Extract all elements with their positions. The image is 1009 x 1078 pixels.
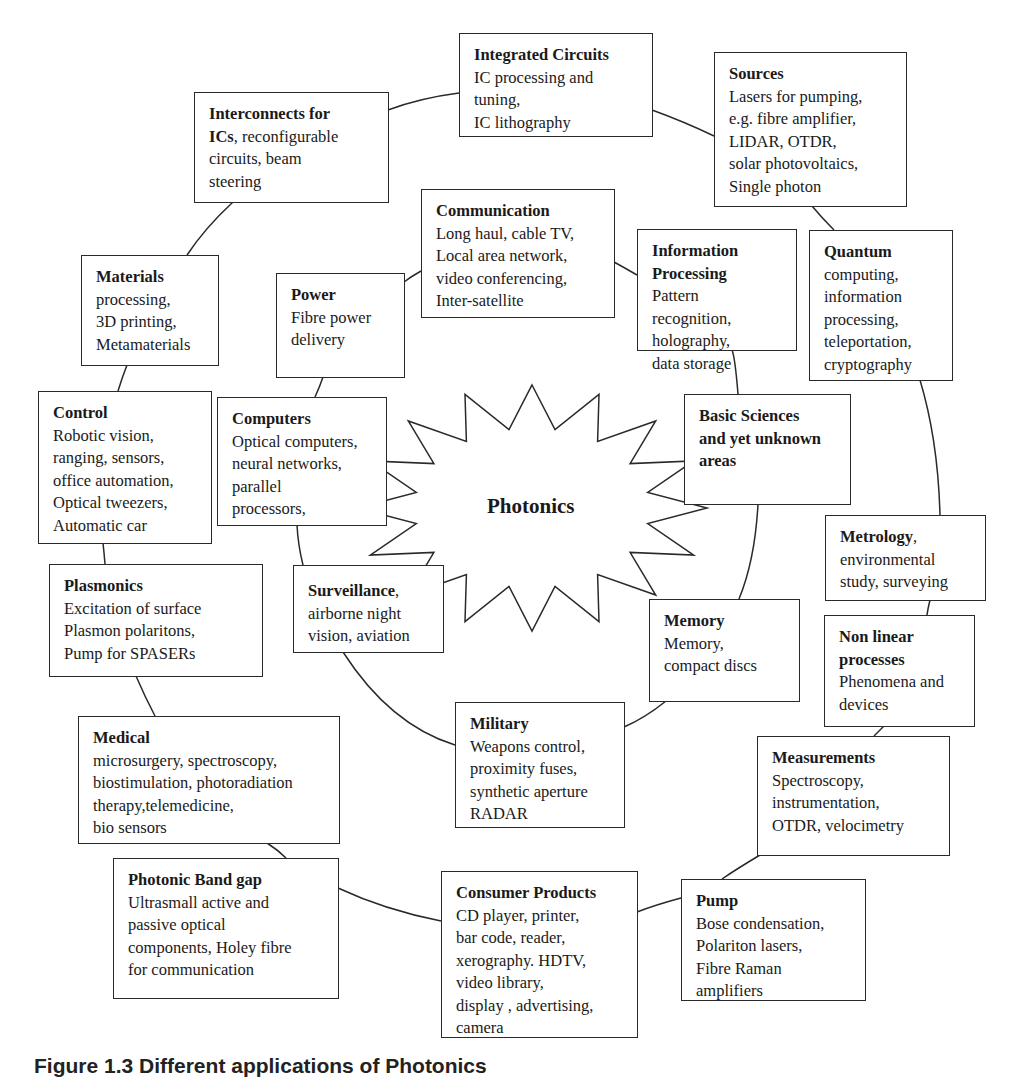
node-line: Fibre power (291, 307, 396, 330)
connector-interconnects-ic (388, 93, 459, 110)
connector-control-materials (118, 365, 127, 391)
node-line: IC processing and (474, 67, 644, 90)
node-line: Long haul, cable TV, (436, 223, 606, 246)
node-title: Interconnects for (209, 103, 380, 126)
connector-memory-military (624, 701, 666, 727)
connector-computers-power (315, 377, 323, 397)
node-line: LIDAR, OTDR, (729, 131, 898, 154)
node-line: Inter-satellite (436, 290, 606, 313)
node-surveillance: Surveillance, airborne night vision, avi… (293, 565, 444, 653)
node-title: Memory (664, 610, 791, 633)
node-line: bio sensors (93, 817, 331, 840)
node-title-suffix: , (395, 581, 399, 600)
node-title: Integrated Circuits (474, 44, 644, 67)
node-title-line-2: Processing (652, 263, 788, 286)
node-line: e.g. fibre amplifier, (729, 108, 898, 131)
node-interconnects: Interconnects for ICs, reconfigurable ci… (194, 92, 389, 203)
node-title: Power (291, 284, 396, 307)
node-line: Excitation of surface (64, 598, 254, 621)
connector-ic-sources (652, 110, 714, 136)
node-line: microsurgery, spectroscopy, (93, 750, 331, 773)
node-title-suffix: , reconfigurable (234, 127, 338, 146)
node-line: compact discs (664, 655, 791, 678)
node-title: Photonic Band gap (128, 869, 330, 892)
node-line: for communication (128, 959, 330, 982)
node-memory: Memory Memory, compact discs (649, 599, 800, 702)
node-title: Medical (93, 727, 331, 750)
node-title-part: ICs (209, 127, 234, 146)
node-line: Optical computers, (232, 431, 378, 454)
node-line: Spectroscopy, (772, 770, 941, 793)
node-line: Pattern (652, 285, 788, 308)
node-line: xerography. HDTV, (456, 950, 629, 973)
node-line: cryptography (824, 354, 944, 377)
connector-basic-memory (739, 504, 758, 599)
node-measurements: Measurements Spectroscopy, instrumentati… (757, 736, 950, 856)
node-communication: Communication Long haul, cable TV, Local… (421, 189, 615, 318)
node-line: proximity fuses, (470, 758, 616, 781)
node-line: parallel (232, 476, 378, 499)
node-line: information (824, 286, 944, 309)
node-line: bar code, reader, (456, 927, 629, 950)
node-line: Automatic car (53, 515, 203, 538)
node-line: processors, (232, 498, 378, 521)
node-line: computing, (824, 264, 944, 287)
node-line: CD player, printer, (456, 905, 629, 928)
node-title: Plasmonics (64, 575, 254, 598)
node-line: therapy,telemedicine, (93, 795, 331, 818)
connector-military-surveillance (343, 652, 455, 745)
node-power: Power Fibre power delivery (276, 273, 405, 378)
node-title-line-2: processes (839, 649, 966, 672)
node-integrated-circuits: Integrated Circuits IC processing and tu… (459, 33, 653, 137)
node-line: steering (209, 171, 380, 194)
node-line: IC lithography (474, 112, 644, 135)
node-line: Metamaterials (96, 334, 210, 357)
node-line: processing, (96, 289, 210, 312)
node-information-processing: Information Processing Pattern recogniti… (637, 229, 797, 351)
node-title-line-2: ICs, reconfigurable (209, 126, 380, 149)
node-line: video library, (456, 972, 629, 995)
node-line: video conferencing, (436, 268, 606, 291)
node-line: holography, (652, 330, 788, 353)
node-line: Pump for SPASERs (64, 643, 254, 666)
node-line: components, Holey fibre (128, 937, 330, 960)
connector-pump-consumer (637, 898, 681, 912)
node-line: RADAR (470, 803, 616, 826)
node-title: Communication (436, 200, 606, 223)
node-line: office automation, (53, 470, 203, 493)
node-line: processing, (824, 309, 944, 332)
node-line: Single photon (729, 176, 898, 199)
node-title-line: Surveillance, (308, 580, 435, 603)
node-title: Sources (729, 63, 898, 86)
figure-caption: Figure 1.3 Different applications of Pho… (34, 1054, 487, 1078)
node-line: Local area network, (436, 245, 606, 268)
connector-power-communication (404, 271, 421, 282)
node-title: Pump (696, 890, 857, 913)
node-line: Plasmon polaritons, (64, 620, 254, 643)
node-line: environmental (840, 549, 977, 572)
node-line: Polariton lasers, (696, 935, 857, 958)
node-metrology: Metrology, environmental study, surveyin… (825, 515, 986, 601)
node-line: Fibre Raman (696, 958, 857, 981)
node-consumer-products: Consumer Products CD player, printer, ba… (441, 871, 638, 1038)
node-photonic-band-gap: Photonic Band gap Ultrasmall active and … (113, 858, 339, 999)
node-line: synthetic aperture (470, 781, 616, 804)
node-line: tuning, (474, 89, 644, 112)
connector-consumer-pbg (338, 888, 441, 921)
node-line: recognition, (652, 308, 788, 331)
node-line: camera (456, 1017, 629, 1040)
node-quantum: Quantum computing, information processin… (809, 230, 953, 381)
center-label: Photonics (487, 494, 575, 519)
node-title: Basic Sciences (699, 405, 842, 428)
node-title: Quantum (824, 241, 944, 264)
node-line: delivery (291, 329, 396, 352)
node-title-line-3: areas (699, 450, 842, 473)
connector-nonlinear-measurements (874, 726, 884, 736)
connector-sources-quantum (812, 206, 834, 230)
node-line: display , advertising, (456, 995, 629, 1018)
node-line: Memory, (664, 633, 791, 656)
node-military: Military Weapons control, proximity fuse… (455, 702, 625, 828)
node-title: Surveillance (308, 581, 395, 600)
node-line: passive optical (128, 914, 330, 937)
node-materials: Materials processing, 3D printing, Metam… (81, 255, 219, 366)
